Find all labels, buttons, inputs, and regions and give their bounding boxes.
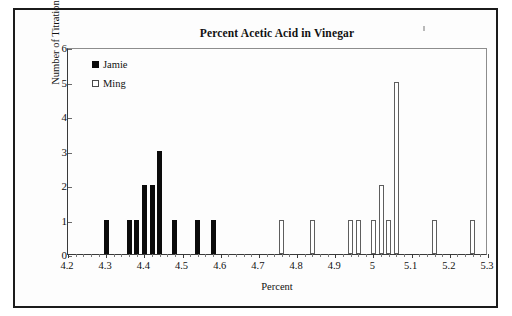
bar-ming-4.76 xyxy=(279,220,284,255)
x-tick-4.7 xyxy=(259,254,260,258)
bar-jamie-4.42 xyxy=(150,185,155,254)
legend-label-ming: Ming xyxy=(103,78,126,89)
x-tick-4.62 xyxy=(228,254,229,257)
x-tick-4.44 xyxy=(160,254,161,257)
legend-label-jamie: Jamie xyxy=(103,59,128,70)
bar-ming-4.84 xyxy=(310,220,315,255)
bar-ming-5.16 xyxy=(432,220,437,255)
chart-title: Percent Acetic Acid in Vinegar xyxy=(67,27,487,39)
x-tick-4.34 xyxy=(121,254,122,257)
x-tick-label-4.5: 4.5 xyxy=(162,260,202,271)
x-tick-4.42 xyxy=(152,254,153,257)
x-tick-4.58 xyxy=(213,254,214,257)
x-tick-4.56 xyxy=(205,254,206,257)
bar-jamie-4.58 xyxy=(211,220,216,255)
x-tick-5.18 xyxy=(442,254,443,257)
x-tick-4.92 xyxy=(343,254,344,257)
x-tick-4.96 xyxy=(358,254,359,257)
x-tick-5.12 xyxy=(419,254,420,257)
x-tick-label-5: 5 xyxy=(352,260,392,271)
x-tick-4.52 xyxy=(190,254,191,257)
bar-jamie-4.48 xyxy=(172,220,177,255)
histogram-chart: Percent Acetic Acid in Vinegar Number of… xyxy=(0,0,512,316)
legend-item-ming: Ming xyxy=(92,75,128,91)
x-tick-4.22 xyxy=(76,254,77,257)
x-tick-4.46 xyxy=(167,254,168,257)
chart-legend: JamieMing xyxy=(92,56,128,94)
y-tick-3 xyxy=(68,153,72,154)
x-tick-4.82 xyxy=(305,254,306,257)
bar-jamie-4.54 xyxy=(195,220,200,255)
bar-jamie-4.3 xyxy=(104,220,109,255)
x-tick-4.88 xyxy=(328,254,329,257)
bar-ming-5 xyxy=(371,220,376,255)
bar-jamie-4.36 xyxy=(127,220,132,255)
x-tick-label-5.1: 5.1 xyxy=(391,260,431,271)
x-tick-5.16 xyxy=(435,254,436,257)
x-tick-5.2 xyxy=(450,254,451,258)
x-tick-label-4.4: 4.4 xyxy=(123,260,163,271)
filled-square-icon xyxy=(92,61,99,68)
x-tick-label-4.2: 4.2 xyxy=(47,260,87,271)
x-axis-title: Percent xyxy=(67,281,487,292)
x-tick-5.04 xyxy=(389,254,390,257)
x-tick-label-5.2: 5.2 xyxy=(429,260,469,271)
x-tick-5.26 xyxy=(473,254,474,257)
x-tick-5.02 xyxy=(381,254,382,257)
x-tick-5.06 xyxy=(396,254,397,257)
x-tick-4.68 xyxy=(251,254,252,257)
y-tick-label-6: 6 xyxy=(43,42,67,54)
bar-ming-5.26 xyxy=(470,220,475,255)
x-tick-4.66 xyxy=(244,254,245,257)
y-tick-label-2: 2 xyxy=(43,180,67,192)
x-tick-5.08 xyxy=(404,254,405,257)
x-tick-4.64 xyxy=(236,254,237,257)
x-tick-4.28 xyxy=(99,254,100,257)
bar-jamie-4.38 xyxy=(134,220,139,255)
y-tick-2 xyxy=(68,187,72,188)
x-tick-4.24 xyxy=(83,254,84,257)
x-tick-5.24 xyxy=(465,254,466,257)
bar-ming-4.96 xyxy=(356,220,361,255)
x-tick-4.78 xyxy=(289,254,290,257)
x-tick-4.2 xyxy=(68,254,69,258)
bar-jamie-4.4 xyxy=(142,185,147,254)
x-tick-4.9 xyxy=(335,254,336,258)
y-tick-label-1: 1 xyxy=(43,215,67,227)
legend-item-jamie: Jamie xyxy=(92,56,128,72)
x-tick-5 xyxy=(373,254,374,258)
x-tick-4.76 xyxy=(282,254,283,257)
x-tick-4.4 xyxy=(144,254,145,258)
bar-ming-5.06 xyxy=(394,82,399,255)
y-axis-title: Number of Titrations xyxy=(50,0,61,116)
bar-ming-5.04 xyxy=(386,220,391,255)
bar-ming-4.94 xyxy=(348,220,353,255)
x-tick-4.38 xyxy=(137,254,138,257)
x-tick-4.72 xyxy=(267,254,268,257)
x-tick-4.8 xyxy=(297,254,298,258)
plot-area xyxy=(67,48,487,255)
x-tick-4.98 xyxy=(366,254,367,257)
x-tick-label-4.3: 4.3 xyxy=(85,260,125,271)
x-tick-4.54 xyxy=(198,254,199,257)
bar-ming-5.02 xyxy=(379,185,384,254)
y-tick-4 xyxy=(68,118,72,119)
x-tick-4.86 xyxy=(320,254,321,257)
x-tick-5.22 xyxy=(457,254,458,257)
x-tick-5.28 xyxy=(480,254,481,257)
x-tick-4.3 xyxy=(106,254,107,258)
x-tick-4.48 xyxy=(175,254,176,257)
x-tick-4.36 xyxy=(129,254,130,257)
x-tick-label-4.8: 4.8 xyxy=(276,260,316,271)
y-tick-6 xyxy=(68,49,72,50)
x-tick-4.84 xyxy=(312,254,313,257)
x-tick-4.74 xyxy=(274,254,275,257)
x-tick-4.94 xyxy=(351,254,352,257)
y-tick-label-4: 4 xyxy=(43,111,67,123)
x-tick-4.26 xyxy=(91,254,92,257)
x-tick-4.32 xyxy=(114,254,115,257)
x-tick-4.6 xyxy=(221,254,222,258)
x-tick-label-4.7: 4.7 xyxy=(238,260,278,271)
y-tick-label-3: 3 xyxy=(43,146,67,158)
x-tick-5.1 xyxy=(412,254,413,258)
